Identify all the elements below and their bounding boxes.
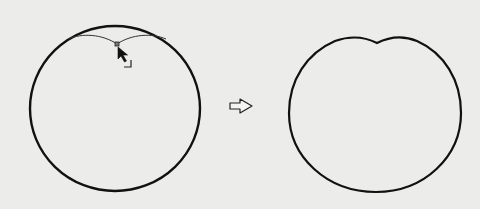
- after-figure: [289, 37, 461, 192]
- before-figure: [30, 26, 200, 191]
- convert-anchor-point-cursor-icon: [118, 47, 131, 67]
- original-circle: [30, 26, 200, 191]
- notched-circle: [289, 37, 461, 192]
- diagram-stage: Dragging the top anchor point of a circl…: [0, 0, 480, 209]
- transition-arrow-icon: [230, 99, 252, 113]
- diagram-canvas: [0, 0, 480, 209]
- anchor-point[interactable]: [115, 42, 119, 46]
